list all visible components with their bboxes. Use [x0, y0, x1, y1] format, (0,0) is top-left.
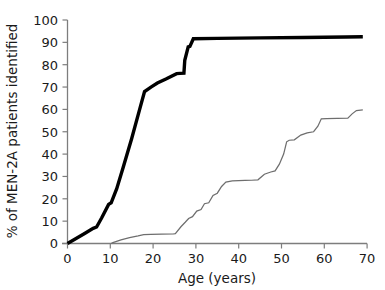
- x-tick-label: 70: [359, 251, 376, 266]
- x-tick-label: 40: [230, 251, 247, 266]
- y-tick-label: 40: [41, 147, 58, 162]
- chart-plot-area: 100 90 80 70 60 50 40 30 20 10 0 0 10 20…: [0, 0, 385, 290]
- x-tick-label: 0: [63, 251, 71, 266]
- x-tick-label: 30: [188, 251, 205, 266]
- x-axis-ticks: [68, 244, 368, 249]
- x-tick-label: 20: [145, 251, 162, 266]
- y-axis-ticks: [63, 20, 68, 244]
- y-axis-title: % of MEN-2A patients identified: [4, 24, 20, 239]
- y-tick-label: 100: [33, 13, 58, 28]
- x-tick-label: 60: [316, 251, 333, 266]
- series-line-screened-carriers: [68, 37, 363, 244]
- y-tick-label: 20: [41, 192, 58, 207]
- y-tick-label: 70: [41, 80, 58, 95]
- y-tick-label: 90: [41, 35, 58, 50]
- y-tick-label: 60: [41, 102, 58, 117]
- y-tick-label: 80: [41, 58, 58, 73]
- chart-figure: 100 90 80 70 60 50 40 30 20 10 0 0 10 20…: [0, 0, 385, 290]
- y-tick-label: 50: [41, 125, 58, 140]
- y-tick-label: 0: [50, 236, 58, 251]
- series-line-index-cases: [111, 110, 363, 244]
- x-axis-title: Age (years): [178, 270, 256, 286]
- y-tick-labels: 100 90 80 70 60 50 40 30 20 10 0: [33, 13, 58, 252]
- x-tick-label: 10: [102, 251, 119, 266]
- x-tick-labels: 0 10 20 30 40 50 60 70: [63, 251, 375, 266]
- y-tick-label: 30: [41, 169, 58, 184]
- y-tick-label: 10: [41, 214, 58, 229]
- x-tick-label: 50: [273, 251, 290, 266]
